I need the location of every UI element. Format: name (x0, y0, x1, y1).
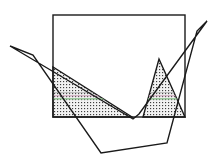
geometric-figure (0, 0, 217, 165)
